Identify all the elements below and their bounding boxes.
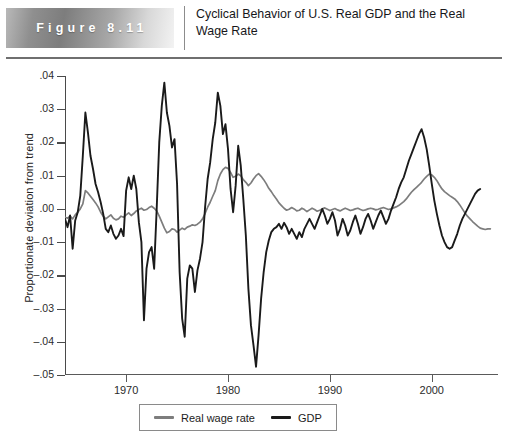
y-tick-label: .01 [39, 169, 54, 181]
y-tick-label: .00 [39, 202, 54, 214]
x-tick-label: 1970 [102, 384, 150, 396]
y-tick-label: .02 [39, 135, 54, 147]
legend-swatch-gdp [271, 416, 291, 419]
x-tick-label: 1990 [306, 384, 354, 396]
y-tick-label: –.01 [34, 235, 54, 247]
figure-header: Figure 8.11 Cyclical Behavior of U.S. Re… [0, 0, 508, 62]
legend-label-gdp: GDP [298, 412, 322, 424]
y-tick-label: –.04 [34, 335, 54, 347]
y-tick-mark [57, 109, 65, 110]
figure-number-label: Figure 8.11 [32, 21, 148, 35]
legend-item-real-wage-rate: Real wage rate [154, 412, 255, 424]
y-tick-label: .03 [39, 102, 54, 114]
x-tick-label: 1980 [204, 384, 252, 396]
legend-label-real-wage-rate: Real wage rate [181, 412, 255, 424]
x-tick-mark [330, 375, 331, 382]
x-tick-mark [228, 375, 229, 382]
y-tick-mark [57, 76, 65, 77]
y-tick-mark [57, 209, 65, 210]
legend-item-gdp: GDP [271, 412, 322, 424]
figure-title: Cyclical Behavior of U.S. Real GDP and t… [196, 6, 496, 39]
x-tick-mark [126, 375, 127, 382]
header-rule [6, 57, 502, 59]
y-tick-mark [57, 142, 65, 143]
series-line-gdp [65, 83, 480, 367]
y-tick-mark [57, 309, 65, 310]
chart-container: Proportionate deviation from trend .04.0… [0, 62, 508, 448]
y-tick-mark [57, 342, 65, 343]
y-tick-label: .04 [39, 69, 54, 81]
y-tick-label: –.02 [34, 268, 54, 280]
x-tick-label: 2000 [408, 384, 456, 396]
figure-number-badge: Figure 8.11 [6, 8, 174, 48]
y-tick-label: –.05 [34, 368, 54, 380]
y-tick-mark [57, 242, 65, 243]
y-tick-mark [57, 375, 65, 376]
chart-legend: Real wage rate GDP [139, 404, 337, 431]
x-tick-mark [432, 375, 433, 382]
y-tick-label: –.03 [34, 302, 54, 314]
legend-swatch-real-wage-rate [154, 416, 174, 419]
y-tick-mark [57, 275, 65, 276]
chart-plot-lines [65, 76, 498, 375]
figure-page: Figure 8.11 Cyclical Behavior of U.S. Re… [0, 0, 508, 448]
y-tick-mark [57, 176, 65, 177]
y-axis-label: Proportionate deviation from trend [23, 103, 35, 333]
header-divider [184, 6, 185, 50]
